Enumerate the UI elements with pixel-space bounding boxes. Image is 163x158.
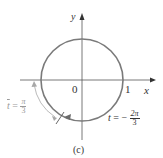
figure-caption: (c) xyxy=(73,145,84,155)
y-axis-label: y xyxy=(71,12,75,22)
x-axis-label: x xyxy=(144,85,149,96)
start-denominator: 3 xyxy=(130,119,140,127)
x-axis-arrow-icon xyxy=(150,78,156,83)
rotation-arc-arrow-icon xyxy=(32,81,38,87)
x-tick-label: 1 xyxy=(125,84,131,95)
start-fraction: 2π 3 xyxy=(130,110,140,127)
start-var: t xyxy=(108,112,111,123)
unit-circle-diagram xyxy=(0,0,163,158)
origin-label: 0 xyxy=(72,84,78,95)
end-fraction: π 3 xyxy=(20,98,26,115)
start-angle-label: t = − 2π 3 xyxy=(108,110,140,127)
end-angle-label: t = π 3 xyxy=(7,98,26,115)
y-axis-arrow-icon xyxy=(80,13,85,20)
end-denominator: 3 xyxy=(20,107,26,115)
rotation-arc xyxy=(34,84,55,117)
end-eq: = xyxy=(12,100,18,111)
end-var: t xyxy=(7,100,10,111)
start-eq: = − xyxy=(113,112,127,123)
